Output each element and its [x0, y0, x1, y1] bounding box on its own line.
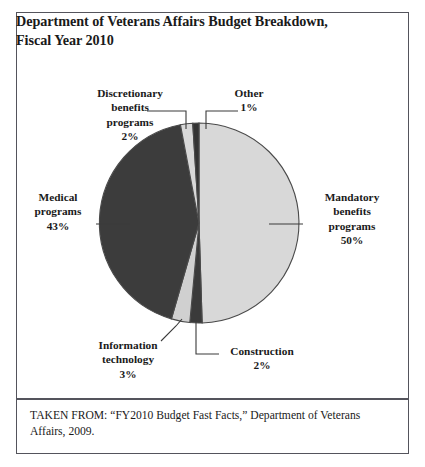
pie-label-medical-percent: 43% [6, 219, 110, 233]
pie-label-mandatory-benefits-programs: Mandatory benefits programs 50% [306, 190, 398, 248]
pie-label-discretionary-percent: 2% [78, 129, 182, 143]
pie-label-medical-programs: Medical programs 43% [6, 190, 110, 233]
pie-label-discretionary-line-3: programs [107, 116, 154, 128]
pie-label-construction-percent: 2% [210, 358, 314, 372]
pie-slices [99, 123, 299, 323]
pie-label-construction-line-1: Construction [230, 345, 293, 357]
pie-label-discretionary-line-1: Discretionary [97, 87, 163, 99]
pie-label-mandatory-line-1: Mandatory [325, 191, 380, 203]
pie-label-other-percent: 1% [206, 100, 292, 114]
pie-label-infotech-line-1: Information [99, 339, 158, 351]
pie-label-medical-line-1: Medical [39, 191, 78, 203]
pie-label-discretionary-benefits-programs: Discretionary benefits programs 2% [78, 86, 182, 144]
pie-label-information-technology: Information technology 3% [76, 338, 180, 381]
pie-label-discretionary-line-2: benefits [111, 101, 149, 113]
source-note-divider [16, 398, 409, 400]
pie-slice-mandatory-benefits-programs [199, 123, 299, 323]
pie-label-mandatory-percent: 50% [306, 233, 398, 247]
pie-chart: Discretionary benefits programs 2% Other… [0, 0, 393, 390]
source-note: TAKEN FROM: “FY2010 Budget Fast Facts,” … [30, 408, 396, 441]
pie-label-construction: Construction 2% [210, 344, 314, 373]
pie-label-mandatory-line-3: programs [329, 220, 376, 232]
pie-label-mandatory-line-2: benefits [333, 205, 371, 217]
pie-label-infotech-percent: 3% [76, 367, 180, 381]
pie-label-infotech-line-2: technology [102, 353, 154, 365]
pie-label-medical-line-2: programs [35, 205, 82, 217]
pie-label-other: Other 1% [206, 86, 292, 115]
pie-label-other-line-1: Other [235, 87, 264, 99]
